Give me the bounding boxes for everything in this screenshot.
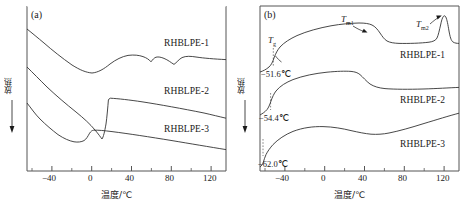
panel-b-tg-pointer	[276, 56, 282, 62]
panel-a-xtick-2: 40	[125, 173, 134, 183]
panel-a-xtick-4: 120	[203, 173, 217, 183]
panel-a-label-rhblpe-1: RHBLPE-1	[164, 38, 209, 48]
panel-b-xtick-4: 120	[436, 173, 450, 183]
panel-b-curve-rhblpe-1	[260, 16, 459, 72]
panel-b-tm1-annotation: Tm1	[341, 14, 354, 26]
panel-b-tg-annotation: Tg	[268, 35, 276, 47]
panel-b-label-rhblpe-2: RHBLPE-2	[400, 95, 445, 105]
panel-b-plot	[233, 0, 465, 212]
panel-b-label-rhblpe-1: RHBLPE-1	[400, 50, 445, 60]
panel-b-tg-value-rhblpe-2: −54.4℃	[259, 113, 289, 123]
panel-a-label-rhblpe-3: RHBLPE-3	[164, 124, 209, 134]
panel-a-xtick-0: −40	[42, 173, 56, 183]
panel-b-exotherm-arrow	[243, 100, 248, 133]
panel-a-label-rhblpe-2: RHBLPE-2	[164, 86, 209, 96]
panel-b-x-axis-label: 温度/℃	[334, 188, 365, 201]
panel-b-xtick-3: 80	[398, 173, 407, 183]
panel-b-tm1-pointer	[353, 26, 368, 33]
panel-b-major-ticks	[285, 166, 444, 171]
panel-a-xtick-3: 80	[165, 173, 174, 183]
panel-b-tg-value-rhblpe-3: −62.0℃	[258, 159, 288, 169]
panel-b-xtick-0: −40	[275, 173, 289, 183]
panel-a-xtick-1: 0	[88, 173, 93, 183]
panel-b-tm2-annotation: Tm2	[416, 19, 429, 31]
panel-a-exotherm-arrow	[10, 100, 15, 133]
panel-b-tm2-pointer	[430, 15, 442, 24]
panel-a-curve-rhblpe-1	[27, 29, 226, 73]
dsc-figure: (a) 放热	[0, 0, 465, 212]
panel-b-label-rhblpe-3: RHBLPE-3	[400, 139, 445, 149]
panel-a: (a) 放热	[0, 0, 232, 212]
panel-a-plot	[0, 0, 232, 212]
panel-b: (b) 放热	[233, 0, 465, 212]
panel-b-tg-value-rhblpe-1: −51.6℃	[261, 69, 291, 79]
panel-b-tg-markers	[263, 48, 273, 156]
panel-b-xtick-1: 0	[321, 173, 326, 183]
panel-a-x-axis-label: 温度/℃	[101, 188, 132, 201]
panel-a-major-ticks	[52, 166, 211, 171]
panel-b-xtick-2: 40	[358, 173, 367, 183]
